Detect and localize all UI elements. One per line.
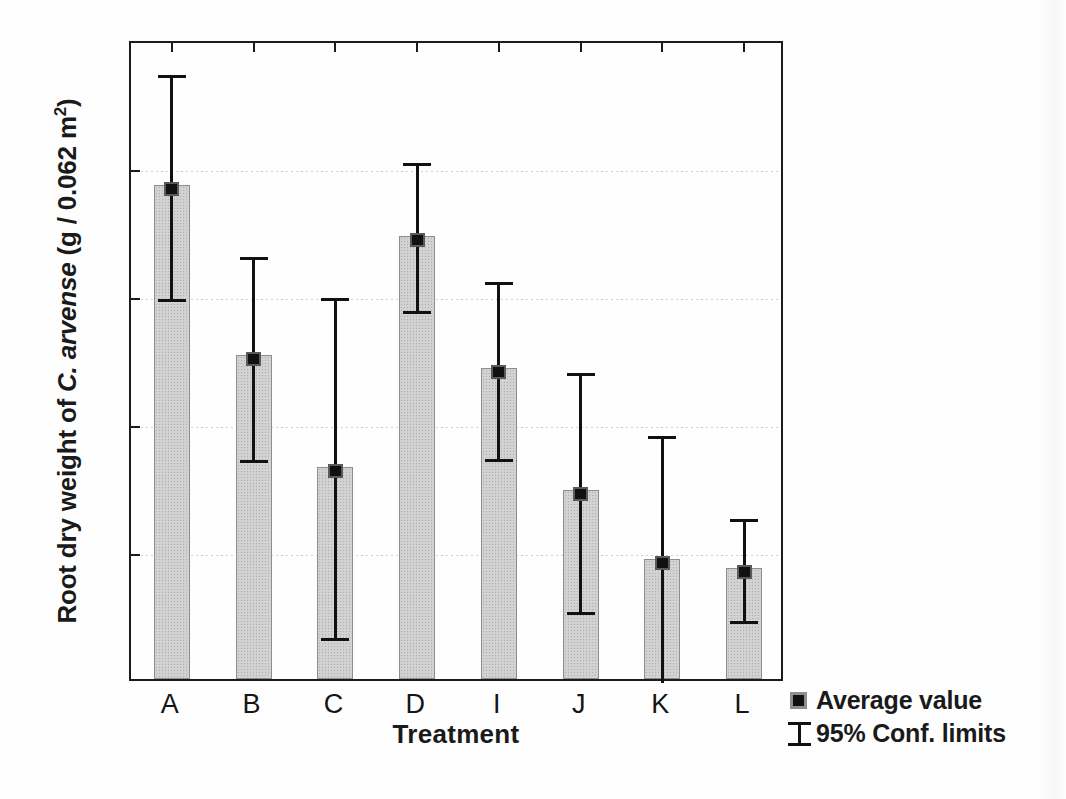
top-axis-tick: [743, 43, 745, 52]
error-bar-upper-cap-k: [648, 436, 676, 439]
chart-figure: 01020304050 ABCDIJKL Root dry weight of …: [0, 0, 1066, 799]
gridline: [131, 427, 781, 428]
legend-item-conf-limits: 95% Conf. limits: [786, 717, 1056, 750]
error-bar-upper-cap-c: [321, 298, 349, 301]
error-bar-upper-cap-b: [240, 257, 268, 260]
error-bar-upper-cap-a: [158, 75, 186, 78]
error-bar-lower-cap-d: [403, 311, 431, 314]
average-marker-j: [573, 487, 588, 501]
error-bar-lower-cap-b: [240, 460, 268, 463]
y-axis-tick: [131, 554, 140, 556]
error-bar-lower-cap-j: [567, 612, 595, 615]
x-axis-category-label-i: I: [467, 689, 527, 720]
x-axis-category-label-l: L: [712, 689, 772, 720]
error-bar-upper-cap-j: [567, 373, 595, 376]
average-marker-d: [410, 233, 425, 247]
y-axis-tick: [131, 170, 140, 172]
top-axis-tick: [253, 43, 255, 52]
legend-item-average-value: Average value: [786, 684, 1056, 717]
top-axis-tick: [661, 43, 663, 52]
average-marker-l: [737, 565, 752, 579]
gridline: [131, 555, 781, 556]
top-axis-tick: [580, 43, 582, 52]
average-marker-b: [246, 352, 261, 366]
x-axis-title: Treatment: [129, 719, 783, 750]
error-bar-upper-cap-l: [730, 519, 758, 522]
error-bar-lower-cap-l: [730, 621, 758, 624]
gridline: [131, 171, 781, 172]
top-axis-tick: [334, 43, 336, 52]
x-axis-category-label-a: A: [140, 689, 200, 720]
plot-area: [129, 41, 783, 681]
average-marker-a: [164, 182, 179, 196]
error-bar-upper-cap-d: [403, 163, 431, 166]
y-axis-tick: [131, 426, 140, 428]
top-axis-tick: [171, 43, 173, 52]
y-axis-title: Root dry weight of C. arvense (g / 0.062…: [44, 41, 90, 681]
average-marker-c: [328, 464, 343, 478]
x-axis-category-label-d: D: [385, 689, 445, 720]
filled-square-marker-icon: [786, 687, 816, 715]
average-marker-k: [655, 556, 670, 570]
i-beam-error-bar-icon: [786, 720, 816, 748]
x-axis-category-label-c: C: [303, 689, 363, 720]
error-bar-lower-cap-c: [321, 638, 349, 641]
x-axis-category-label-b: B: [222, 689, 282, 720]
chart-legend: Average value 95% Conf. limits: [786, 684, 1056, 750]
x-axis-category-label-k: K: [630, 689, 690, 720]
error-bar-lower-cap-i: [485, 459, 513, 462]
top-axis-tick: [498, 43, 500, 52]
y-axis-title-text: Root dry weight of C. arvense (g / 0.062…: [51, 98, 83, 623]
top-axis-tick: [416, 43, 418, 52]
error-bar-upper-cap-i: [485, 282, 513, 285]
gridline: [131, 299, 781, 300]
scan-noise-artifact: [1038, 0, 1066, 799]
y-axis-tick: [131, 298, 140, 300]
error-bar-lower-cap-a: [158, 299, 186, 302]
average-marker-i: [491, 365, 506, 379]
legend-label-average-value: Average value: [816, 686, 982, 715]
legend-label-conf-limits: 95% Conf. limits: [816, 719, 1006, 748]
x-axis-category-label-j: J: [549, 689, 609, 720]
